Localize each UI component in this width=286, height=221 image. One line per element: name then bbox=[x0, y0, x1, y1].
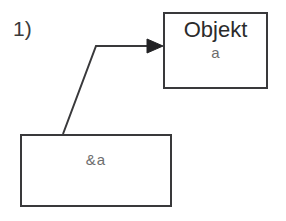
object-box: Objekt a bbox=[163, 12, 268, 89]
pointer-box: &a bbox=[20, 134, 172, 207]
pointer-reference-arrow-line bbox=[63, 46, 158, 134]
diagram-canvas: 1) Objekt a &a bbox=[0, 0, 286, 221]
arrowhead-icon bbox=[147, 39, 163, 53]
pointer-box-label: &a bbox=[22, 152, 170, 169]
object-box-title: Objekt bbox=[165, 18, 266, 42]
step-number-label: 1) bbox=[13, 18, 32, 39]
object-box-subtitle: a bbox=[165, 45, 266, 62]
